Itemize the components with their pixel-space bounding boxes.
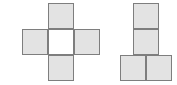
bottom-right-cell bbox=[146, 55, 172, 81]
bottom-left-cell bbox=[120, 55, 146, 81]
upper-cell bbox=[133, 3, 159, 29]
middle-cell bbox=[133, 29, 159, 55]
figure-canvas bbox=[0, 0, 177, 85]
right-figure-t-shape bbox=[0, 0, 177, 85]
